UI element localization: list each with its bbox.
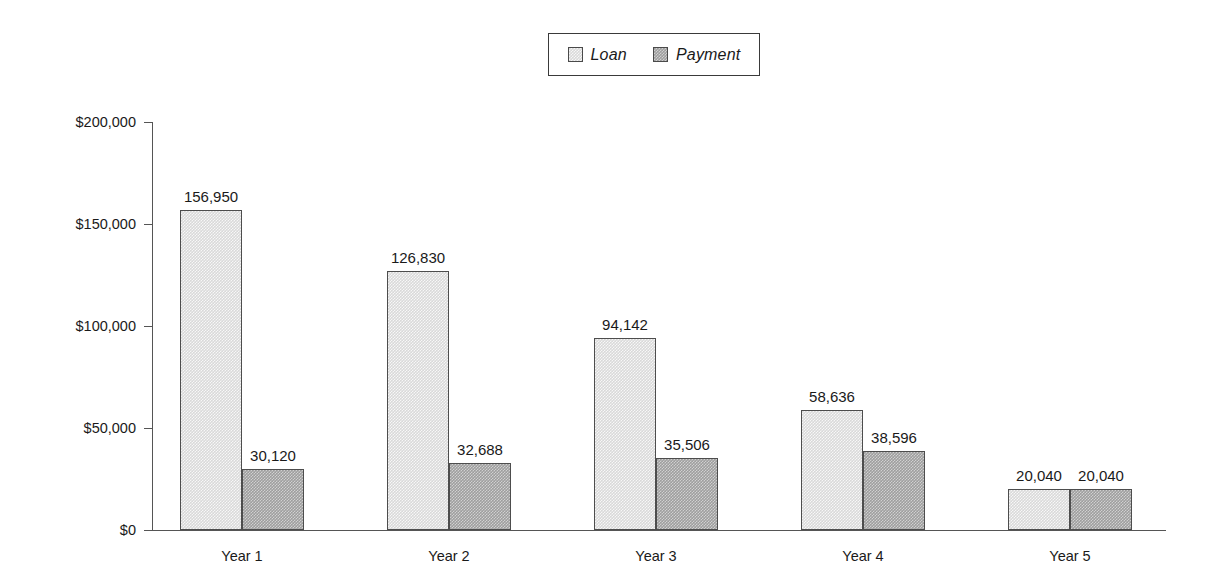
bar-value-label: 38,596 — [849, 429, 939, 446]
y-axis-tick — [144, 530, 153, 531]
y-axis-tick — [144, 326, 153, 327]
y-axis-tick — [144, 122, 153, 123]
x-axis-label-year-2: Year 2 — [379, 548, 519, 564]
x-axis-label-year-4: Year 4 — [793, 548, 933, 564]
y-axis-tick-label: $0 — [120, 522, 136, 538]
bar-value-label: 126,830 — [373, 249, 463, 266]
y-axis-tick-label: $150,000 — [76, 216, 136, 232]
y-axis-tick — [144, 224, 153, 225]
x-axis-label-year-3: Year 3 — [586, 548, 726, 564]
y-axis-tick — [144, 428, 153, 429]
bar-chart-plot-area: $0$50,000$100,000$150,000$200,000 156,95… — [0, 0, 1226, 588]
bar-payment-year-5[interactable] — [1070, 489, 1132, 530]
x-axis-label-year-1: Year 1 — [172, 548, 312, 564]
x-axis-line — [152, 530, 1166, 531]
bar-loan-year-5[interactable] — [1008, 489, 1070, 530]
bar-loan-year-1[interactable] — [180, 210, 242, 530]
y-axis-tick-label: $200,000 — [76, 114, 136, 130]
bar-payment-year-2[interactable] — [449, 463, 511, 530]
y-axis-tick-label: $100,000 — [76, 318, 136, 334]
bar-payment-year-1[interactable] — [242, 469, 304, 530]
bar-value-label: 32,688 — [435, 441, 525, 458]
y-axis-tick-label: $50,000 — [84, 420, 136, 436]
bar-value-label: 58,636 — [787, 388, 877, 405]
bar-payment-year-4[interactable] — [863, 451, 925, 530]
bar-loan-year-3[interactable] — [594, 338, 656, 530]
bar-value-label: 35,506 — [642, 436, 732, 453]
bar-value-label: 94,142 — [580, 316, 670, 333]
bar-value-label: 156,950 — [166, 188, 256, 205]
bar-value-label: 30,120 — [228, 447, 318, 464]
x-axis-label-year-5: Year 5 — [1000, 548, 1140, 564]
bar-loan-year-2[interactable] — [387, 271, 449, 530]
bar-value-label: 20,040 — [1056, 467, 1146, 484]
bar-payment-year-3[interactable] — [656, 458, 718, 530]
